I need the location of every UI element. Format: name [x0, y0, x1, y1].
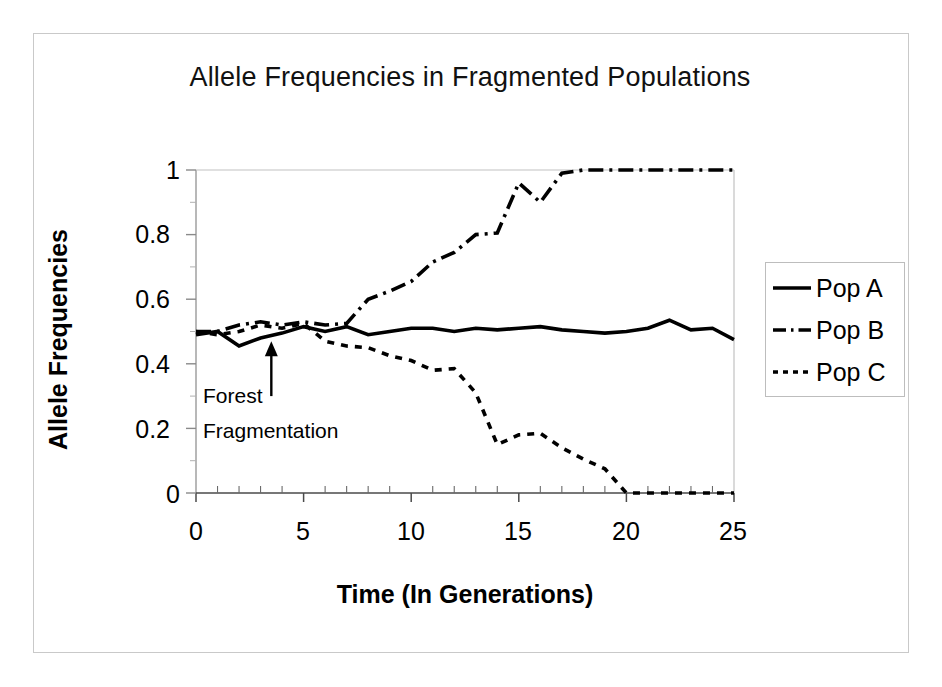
- annotation-arrow: [265, 341, 278, 396]
- chart-screenshot: Allele Frequencies in Fragmented Populat…: [0, 0, 942, 687]
- legend-label: Pop B: [816, 316, 884, 345]
- annotation-text-line2: Fragmentation: [203, 419, 338, 443]
- series-line-pop-b: [196, 170, 734, 332]
- annotation-text-line1: Forest: [203, 384, 263, 408]
- legend-label: Pop C: [816, 358, 885, 387]
- legend-item-pop-a[interactable]: Pop A: [772, 267, 902, 309]
- legend-item-pop-c[interactable]: Pop C: [772, 351, 902, 393]
- legend-line-sample-dashdot: [772, 323, 812, 337]
- series-line-pop-c: [196, 323, 734, 493]
- legend-label: Pop A: [816, 274, 883, 303]
- legend-line-sample-solid: [772, 281, 812, 295]
- legend: Pop A Pop B Pop C: [765, 262, 905, 397]
- legend-line-sample-dotted: [772, 365, 812, 379]
- data-series: [196, 170, 734, 493]
- legend-item-pop-b[interactable]: Pop B: [772, 309, 902, 351]
